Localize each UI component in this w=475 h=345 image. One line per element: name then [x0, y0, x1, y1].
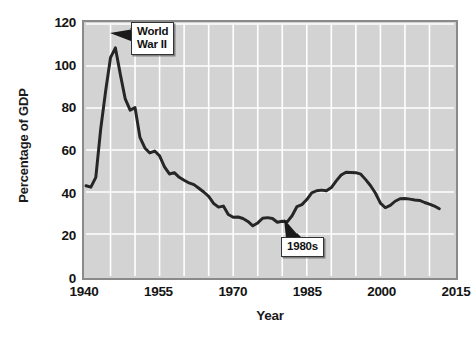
plot-canvas — [84, 22, 456, 278]
data-series-line — [86, 48, 439, 226]
plot-area — [82, 20, 458, 280]
x-tick-label: 1970 — [218, 284, 247, 299]
x-tick-label: 2000 — [367, 284, 396, 299]
x-axis-title: Year — [82, 308, 458, 323]
x-tick-label: 1955 — [144, 284, 173, 299]
x-tick-label: 1940 — [70, 284, 99, 299]
x-tick-label: 2015 — [442, 284, 471, 299]
annotation-1980s: 1980s — [281, 237, 324, 257]
annotation-world-war-ii: World War II — [131, 22, 174, 55]
gridlines — [86, 24, 454, 276]
x-tick-label: 1985 — [293, 284, 322, 299]
chart-figure: Percentage of GDP 020406080100120 194019… — [0, 0, 475, 345]
